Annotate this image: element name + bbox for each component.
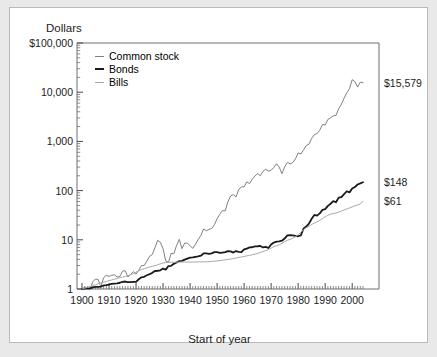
y-tick-label: 10,000 [10,87,73,98]
bills-end-label: $61 [384,196,402,207]
y-tick-label: 100 [10,186,73,197]
y-tick-label: 10 [10,235,73,246]
y-tick-label: $100,000 [10,38,73,49]
figure-panel: Dollars Start of year $100,00010,0001,00… [9,7,428,343]
y-tick-label: 1 [10,284,73,295]
bonds-end-label: $148 [384,177,407,188]
legend-swatch [95,68,104,70]
series-line-common-stock [82,80,363,289]
legend-item-bonds[interactable]: Bonds [95,63,139,75]
screenshot-page: Dollars Start of year $100,00010,0001,00… [0,0,437,357]
chart-figure: Dollars Start of year $100,00010,0001,00… [10,8,429,344]
legend-item-bills[interactable]: Bills [95,76,128,88]
legend-swatch [95,82,104,83]
x-axis-title: Start of year [10,334,429,346]
legend-label: Common stock [109,50,179,62]
x-tick-label: 2000 [332,295,372,306]
series-line-bills [82,201,363,289]
series-line-bonds [82,182,363,289]
common-stock-end-label: $15,579 [384,78,422,89]
legend-label: Bonds [109,63,139,75]
y-tick-label: 1,000 [10,136,73,147]
legend-label: Bills [109,76,128,88]
legend-swatch [95,56,104,57]
y-axis-title: Dollars [46,23,82,35]
legend-item-common-stock[interactable]: Common stock [95,50,179,62]
